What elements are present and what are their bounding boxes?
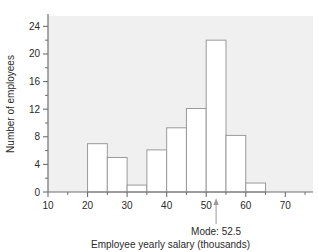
mode-label: Mode: 52.5 <box>191 226 241 237</box>
chart-canvas: 04812162024 10203040506070 Mode: 52.5 Em… <box>0 0 318 252</box>
x-axis-ticks <box>48 192 305 197</box>
x-axis-tick-labels: 10203040506070 <box>42 200 291 211</box>
mode-triangle-icon <box>213 198 218 205</box>
y-tick-label: 24 <box>29 21 41 32</box>
y-tick-label: 12 <box>29 104 41 115</box>
y-axis-tick-labels: 04812162024 <box>29 21 41 198</box>
histogram-bar <box>167 128 187 192</box>
histogram-bar <box>147 150 167 192</box>
histogram-bar <box>88 144 108 192</box>
y-tick-label: 0 <box>34 187 40 198</box>
y-axis-title: Number of employees <box>5 55 16 153</box>
histogram-chart: 04812162024 10203040506070 Mode: 52.5 Em… <box>0 0 318 252</box>
histogram-bar <box>186 108 206 192</box>
x-tick-label: 10 <box>42 200 54 211</box>
y-tick-label: 8 <box>34 131 40 142</box>
x-tick-label: 70 <box>280 200 292 211</box>
y-tick-label: 4 <box>34 159 40 170</box>
histogram-bar <box>107 157 127 192</box>
y-tick-label: 16 <box>29 76 41 87</box>
histogram-bar <box>206 40 226 192</box>
y-axis-ticks <box>43 26 48 192</box>
x-tick-label: 40 <box>161 200 173 211</box>
x-tick-label: 50 <box>201 200 213 211</box>
x-tick-label: 20 <box>82 200 94 211</box>
histogram-bar <box>246 183 266 192</box>
x-tick-label: 30 <box>122 200 134 211</box>
histogram-bar <box>226 135 246 192</box>
y-tick-label: 20 <box>29 48 41 59</box>
x-tick-label: 60 <box>240 200 252 211</box>
mode-annotation: Mode: 52.5 <box>191 198 241 237</box>
x-axis-title: Employee yearly salary (thousands) <box>91 239 250 250</box>
histogram-bar <box>127 185 147 192</box>
